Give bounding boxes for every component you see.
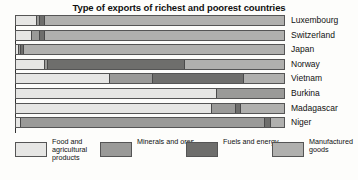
bar-category-label: Niger xyxy=(291,116,311,128)
bar-segment xyxy=(45,31,284,40)
bar-category-label: Luxembourg xyxy=(291,14,338,26)
bar-segment xyxy=(16,74,110,83)
bar-category-label: Madagascar xyxy=(291,102,338,114)
stacked-bar-chart: Type of exports of richest and poorest c… xyxy=(0,0,358,180)
bar-segment xyxy=(16,60,45,69)
bar-row: Burkina xyxy=(0,88,358,99)
legend-swatch xyxy=(272,142,304,157)
bar-track xyxy=(15,30,285,41)
bar-segment xyxy=(21,118,265,127)
bar-track xyxy=(15,103,285,114)
bar-segment xyxy=(217,89,284,98)
bar-segment xyxy=(16,31,32,40)
bar-category-label: Japan xyxy=(291,43,314,55)
plot-area: LuxembourgSwitzerlandJapanNorwayVietnamB… xyxy=(0,15,358,133)
bar-row: Norway xyxy=(0,59,358,70)
bar-segment xyxy=(45,16,284,25)
bar-row: Niger xyxy=(0,117,358,128)
bar-segment xyxy=(244,74,284,83)
bar-segment xyxy=(16,16,37,25)
chart-title: Type of exports of richest and poorest c… xyxy=(0,2,358,13)
bar-segment xyxy=(16,104,212,113)
bar-segment xyxy=(110,74,153,83)
bar-track xyxy=(15,117,285,128)
bar-track xyxy=(15,73,285,84)
bar-segment xyxy=(32,31,40,40)
bar-segment xyxy=(185,60,284,69)
bar-row: Luxembourg xyxy=(0,15,358,26)
chart-legend: Food and agricultural productsMinerals a… xyxy=(0,138,358,168)
bar-segment xyxy=(24,45,284,54)
bar-category-label: Norway xyxy=(291,58,320,70)
bar-segment xyxy=(241,104,284,113)
bar-segment xyxy=(153,74,244,83)
legend-label: Manufactured goods xyxy=(309,138,358,154)
legend-swatch xyxy=(15,142,47,157)
bar-segment xyxy=(16,89,217,98)
bar-row: Vietnam xyxy=(0,73,358,84)
bar-category-label: Vietnam xyxy=(291,72,322,84)
bar-row: Madagascar xyxy=(0,103,358,114)
bar-row: Japan xyxy=(0,44,358,55)
bar-segment xyxy=(48,60,185,69)
bar-segment xyxy=(271,118,284,127)
bar-category-label: Switzerland xyxy=(291,29,335,41)
bar-track xyxy=(15,88,285,99)
legend-swatch xyxy=(186,142,218,157)
legend-swatch xyxy=(100,142,132,157)
bar-track xyxy=(15,59,285,70)
bar-category-label: Burkina xyxy=(291,87,320,99)
bar-row: Switzerland xyxy=(0,30,358,41)
bar-segment xyxy=(212,104,236,113)
bar-track xyxy=(15,44,285,55)
bar-track xyxy=(15,15,285,26)
